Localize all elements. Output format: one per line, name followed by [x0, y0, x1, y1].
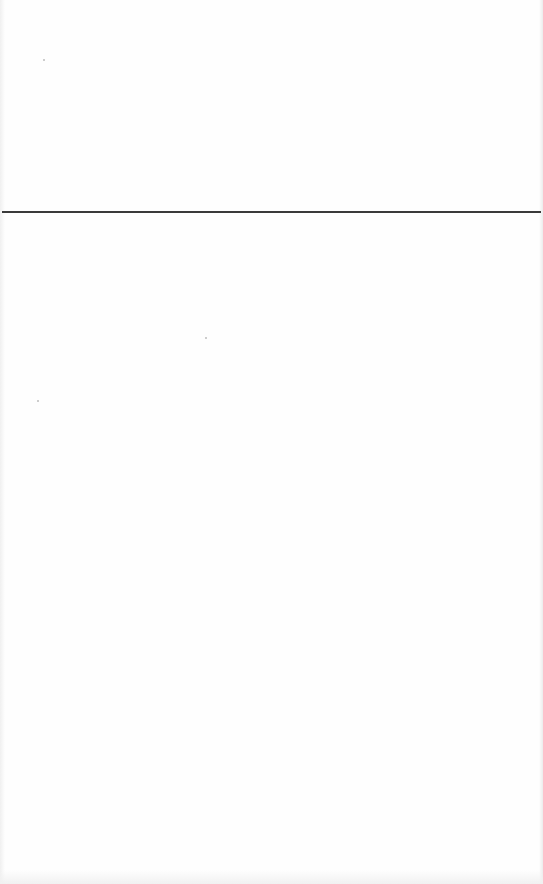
scan-speck	[43, 59, 45, 61]
page-edge-shadow-right	[539, 0, 543, 884]
scan-speck	[37, 400, 39, 402]
scan-speck	[205, 337, 207, 339]
page-edge-shadow-left	[0, 0, 5, 884]
page-edge-shadow-bottom	[0, 870, 543, 884]
document-page	[0, 0, 543, 884]
horizontal-rule	[2, 211, 541, 213]
